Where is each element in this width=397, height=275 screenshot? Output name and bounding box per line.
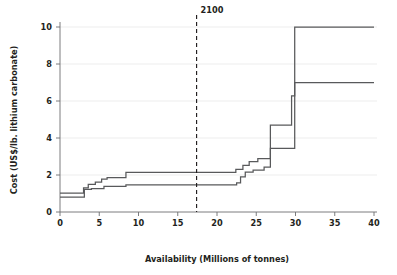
x-tick-label-25: 25 bbox=[251, 218, 263, 228]
y-tick-label-2: 2 bbox=[46, 170, 52, 180]
lithium-availability-cost-curve-chart: 0510152025303540 0246810 2100 Availabili… bbox=[0, 0, 397, 275]
x-tick-label-5: 5 bbox=[96, 218, 102, 228]
gridlines bbox=[60, 27, 377, 175]
y-axis-title: Cost (US$/lb. lithium carbonate) bbox=[9, 45, 19, 194]
chart-container: 0510152025303540 0246810 2100 Availabili… bbox=[0, 0, 397, 275]
data-series bbox=[60, 27, 374, 197]
lower-cost-curve bbox=[60, 83, 374, 198]
y-tick-label-4: 4 bbox=[46, 133, 52, 143]
upper-cost-curve bbox=[60, 27, 374, 193]
chart-annotations: 2100 bbox=[197, 5, 224, 212]
y-tick-label-0: 0 bbox=[46, 207, 52, 217]
x-tick-label-0: 0 bbox=[57, 218, 63, 228]
y-tick-label-8: 8 bbox=[46, 59, 52, 69]
y-tick-labels: 0246810 bbox=[41, 22, 53, 217]
x-tick-label-35: 35 bbox=[329, 218, 341, 228]
axes bbox=[60, 22, 377, 212]
x-tick-label-30: 30 bbox=[290, 218, 302, 228]
x-tick-label-15: 15 bbox=[172, 218, 184, 228]
y-tick-label-10: 10 bbox=[41, 22, 53, 32]
x-tick-label-40: 40 bbox=[368, 218, 380, 228]
x-axis-title: Availability (Millions of tonnes) bbox=[145, 254, 289, 264]
x-tick-labels: 0510152025303540 bbox=[57, 218, 380, 228]
x-tick-label-10: 10 bbox=[133, 218, 145, 228]
year-2100-marker-label: 2100 bbox=[201, 5, 224, 15]
x-tick-label-20: 20 bbox=[211, 218, 223, 228]
y-tick-label-6: 6 bbox=[46, 96, 52, 106]
